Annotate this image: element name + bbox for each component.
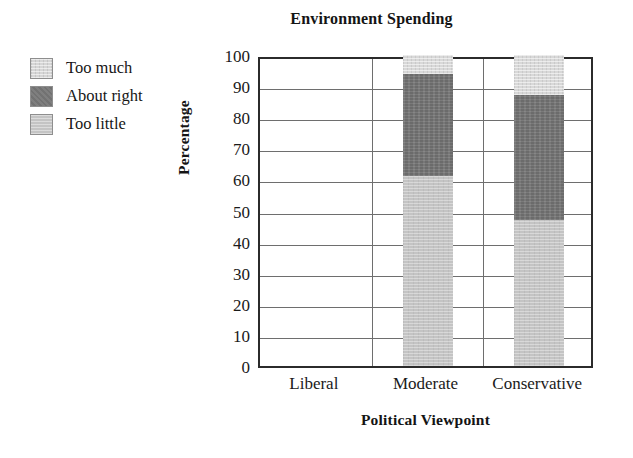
y-tick-label-80: 80 xyxy=(200,110,250,127)
y-axis-title: Percentage xyxy=(175,100,193,175)
plot-area xyxy=(258,57,593,368)
legend-label-too-much: Too much xyxy=(66,60,132,77)
bar-conservative[interactable] xyxy=(514,55,564,366)
legend-swatch-too-much-icon xyxy=(30,58,53,79)
bar-segment-conservative-too-much[interactable] xyxy=(514,55,564,95)
y-tick-label-50: 50 xyxy=(200,204,250,221)
chart-title-text: Environment Spending xyxy=(180,10,452,27)
bar-segment-conservative-about-right[interactable] xyxy=(514,95,564,219)
legend-label-about-right: About right xyxy=(66,88,143,105)
x-tick-label-moderate: Moderate xyxy=(370,374,482,394)
x-axis-title: Political Viewpoint xyxy=(258,411,593,429)
y-tick-label-40: 40 xyxy=(200,235,250,252)
plot-inner xyxy=(260,59,591,366)
gridline-x-2 xyxy=(483,59,484,366)
legend-item-too-much: Too much xyxy=(30,54,200,82)
bar-segment-moderate-about-right[interactable] xyxy=(403,74,453,177)
bar-moderate[interactable] xyxy=(403,55,453,366)
y-tick-label-70: 70 xyxy=(200,141,250,158)
legend-swatch-about-right-icon xyxy=(30,86,53,107)
y-tick-label-20: 20 xyxy=(200,297,250,314)
y-tick-label-90: 90 xyxy=(200,79,250,96)
y-tick-label-0: 0 xyxy=(200,359,250,376)
legend-swatch-too-little-icon xyxy=(30,114,53,135)
x-tick-label-liberal: Liberal xyxy=(258,374,370,394)
legend-label-too-little: Too little xyxy=(66,116,126,133)
bar-segment-moderate-too-little[interactable] xyxy=(403,176,453,366)
y-tick-label-60: 60 xyxy=(200,172,250,189)
gridline-x-1 xyxy=(372,59,373,366)
chart-title: Environment Spending xyxy=(0,10,633,28)
y-tick-label-30: 30 xyxy=(200,266,250,283)
bar-segment-conservative-too-little[interactable] xyxy=(514,220,564,366)
x-tick-label-conservative: Conservative xyxy=(481,374,593,394)
bar-segment-moderate-too-much[interactable] xyxy=(403,55,453,74)
y-tick-label-100: 100 xyxy=(200,48,250,65)
chart-page: Environment Spending Too much About righ… xyxy=(0,0,633,458)
y-tick-label-10: 10 xyxy=(200,328,250,345)
